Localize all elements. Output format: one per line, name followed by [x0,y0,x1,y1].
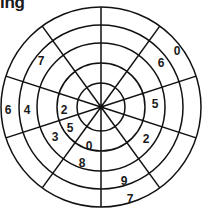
wheel-number: 6 [5,103,12,117]
wheel-number: 6 [158,56,165,70]
wheel-number: 5 [152,97,159,111]
wheel-number: 2 [143,132,150,146]
wheel-number: 5 [67,121,74,135]
wheel-number: 8 [79,156,86,170]
wheel-number: 4 [24,103,31,117]
wheel-number: 9 [121,174,128,188]
wheel-number: 7 [127,192,134,206]
center-hub [99,105,104,110]
wheel-number: 7 [38,54,45,68]
wheel-number: 2 [61,103,68,117]
number-wheel-diagram: 06529780532467 [0,0,204,216]
wheel-number: 0 [86,139,93,153]
wheel-number: 3 [52,130,59,144]
wheel-number: 0 [174,44,181,58]
